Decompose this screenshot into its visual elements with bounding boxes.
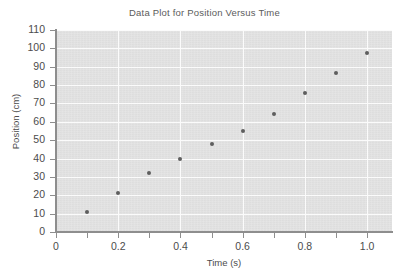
gridline-vertical [118, 30, 119, 232]
data-point [303, 91, 307, 95]
data-point [116, 191, 120, 195]
chart-title: Data Plot for Position Versus Time [0, 7, 409, 18]
x-axis-tick [118, 233, 119, 238]
y-axis-title: Position (cm) [10, 67, 21, 177]
y-axis-tick [50, 177, 55, 178]
y-axis-tick [50, 48, 55, 49]
plot-background-texture [56, 30, 392, 232]
data-point [210, 142, 214, 146]
x-axis-tick [149, 233, 150, 238]
y-axis-tick-label: 110 [5, 23, 45, 35]
data-point [85, 210, 89, 214]
x-axis-tick [212, 233, 213, 238]
gridline-horizontal [56, 67, 392, 68]
x-axis-tick [367, 233, 368, 238]
gridline-horizontal [56, 195, 392, 196]
y-axis-tick [50, 103, 55, 104]
gridline-horizontal [56, 177, 392, 178]
x-axis-tick [305, 233, 306, 238]
x-axis-tick-label: 1.0 [347, 240, 387, 252]
data-point [272, 112, 276, 116]
x-axis-tick-label: 0.2 [98, 240, 138, 252]
x-axis-line [55, 231, 393, 233]
y-axis-tick-label: 20 [5, 188, 45, 200]
gridline-vertical [180, 30, 181, 232]
x-axis-tick [274, 233, 275, 238]
gridline-horizontal [56, 122, 392, 123]
y-axis-tick [50, 195, 55, 196]
y-axis-tick [50, 122, 55, 123]
x-axis-tick-label: 0 [36, 240, 76, 252]
gridline-horizontal [56, 214, 392, 215]
y-axis-tick-label: 100 [5, 41, 45, 53]
gridline-horizontal [56, 103, 392, 104]
x-axis-tick [336, 233, 337, 238]
x-axis-title: Time (s) [56, 257, 392, 268]
y-axis-tick-label: 10 [5, 207, 45, 219]
gridline-horizontal [56, 159, 392, 160]
x-axis-tick [180, 233, 181, 238]
data-point [147, 171, 151, 175]
data-point [178, 157, 182, 161]
x-axis-tick [243, 233, 244, 238]
data-point [334, 71, 338, 75]
data-point [365, 51, 369, 55]
gridline-horizontal [56, 30, 392, 31]
gridline-horizontal [56, 48, 392, 49]
gridline-vertical [305, 30, 306, 232]
x-axis-tick-label: 0.8 [285, 240, 325, 252]
y-axis-tick [50, 140, 55, 141]
x-axis-tick-label: 0.4 [160, 240, 200, 252]
data-point [241, 129, 245, 133]
y-axis-tick [50, 232, 55, 233]
chart-figure: Data Plot for Position Versus Time 01020… [0, 0, 409, 273]
gridline-vertical [367, 30, 368, 232]
y-axis-tick [50, 67, 55, 68]
y-axis-tick [50, 30, 55, 31]
gridline-horizontal [56, 85, 392, 86]
x-axis-tick [56, 233, 57, 238]
y-axis-tick [50, 159, 55, 160]
y-axis-tick [50, 85, 55, 86]
y-axis-line [55, 29, 57, 233]
y-axis-tick-label: 0 [5, 225, 45, 237]
gridline-horizontal [56, 140, 392, 141]
y-axis-tick [50, 214, 55, 215]
x-axis-tick [87, 233, 88, 238]
x-axis-tick-label: 0.6 [223, 240, 263, 252]
plot-area [56, 30, 392, 232]
